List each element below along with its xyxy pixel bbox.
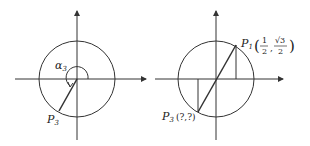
svg-text:P1: P1 bbox=[240, 37, 253, 51]
svg-text:√3: √3 bbox=[275, 36, 285, 45]
svg-text:,: , bbox=[270, 43, 273, 53]
svg-text:1: 1 bbox=[262, 36, 267, 45]
svg-text:): ) bbox=[289, 37, 295, 55]
svg-text:(: ( bbox=[254, 37, 260, 55]
point-label-p3: P3 (?,?) bbox=[161, 110, 196, 124]
svg-text:(?,?): (?,?) bbox=[176, 112, 196, 122]
point-label-p1: P1 ( 1 2 , √3 2 ) bbox=[240, 36, 295, 56]
right-figure: P1 ( 1 2 , √3 2 ) P3 (?,?) bbox=[155, 11, 295, 140]
point-label-p3: P3 bbox=[46, 113, 59, 127]
svg-text:2: 2 bbox=[278, 47, 283, 56]
diagram-canvas: α3 P3 P1 ( 1 2 , √3 2 ) P3 (?,?) bbox=[0, 0, 310, 146]
svg-text:P3: P3 bbox=[161, 110, 174, 124]
left-figure: α3 P3 bbox=[15, 11, 146, 140]
angle-label: α3 bbox=[55, 59, 67, 73]
svg-text:2: 2 bbox=[262, 47, 267, 56]
